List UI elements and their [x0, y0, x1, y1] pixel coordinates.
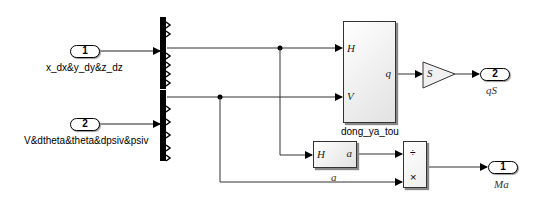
inport-2-number: 2: [82, 118, 88, 129]
dong-ya-tou-subsystem[interactable]: H V q: [343, 21, 396, 123]
product-block[interactable]: ÷ ×: [403, 141, 427, 188]
outport-2-number: 2: [492, 68, 498, 79]
gain-value: S: [427, 67, 433, 79]
dong-ya-tou-label: dong_ya_tou: [341, 126, 399, 137]
port-label-h: H: [317, 148, 325, 160]
inport-1[interactable]: 1: [70, 45, 100, 58]
outport-1[interactable]: 1: [488, 161, 518, 174]
demux-1: [160, 17, 166, 89]
outport-2[interactable]: 2: [480, 68, 510, 81]
inport-1-number: 1: [82, 45, 88, 56]
port-label-h: H: [347, 42, 355, 54]
outport-1-number: 1: [500, 161, 506, 172]
port-label-q: q: [386, 67, 392, 79]
port-label-v: V: [347, 90, 354, 102]
multiply-icon: ×: [410, 171, 416, 183]
signal-lines: [0, 0, 542, 211]
inport-2-label: V&dtheta&theta&dpsiv&psiv: [24, 135, 149, 146]
inport-2[interactable]: 2: [70, 118, 100, 131]
a-subsystem-label: a: [331, 171, 337, 183]
divide-icon: ÷: [410, 147, 416, 158]
demux-2: [160, 90, 166, 161]
outport-1-label: Ma: [494, 178, 509, 190]
inport-1-label: x_dx&y_dy&z_dz: [46, 62, 123, 73]
a-subsystem[interactable]: H a: [313, 141, 357, 168]
outport-2-label: qS: [486, 84, 497, 96]
port-label-a: a: [347, 147, 353, 159]
